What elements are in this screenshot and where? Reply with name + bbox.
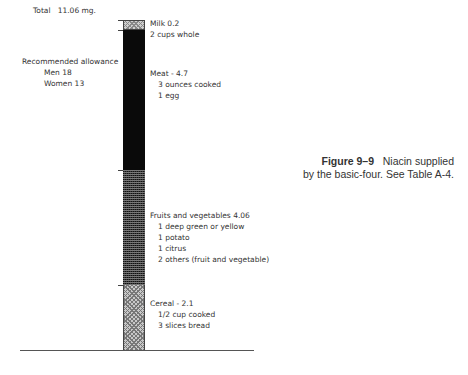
label-meat: Meat - 4.7 3 ounces cooked 1 egg [150, 68, 221, 101]
label-milk-detail: 2 cups whole [150, 29, 199, 40]
total-label-text: Total [33, 6, 51, 15]
bar-segment-cereal [123, 285, 145, 350]
total-label: Total 11.06 mg. [33, 5, 96, 16]
label-veg-detail: 1 potato [150, 232, 269, 243]
label-veg-detail: 1 citrus [150, 243, 269, 254]
label-veg-detail: 1 deep green or yellow [150, 221, 269, 232]
veg-cereal-tick [118, 285, 123, 286]
label-milk: Milk 0.2 2 cups whole [150, 18, 199, 40]
label-cereal-detail: 1/2 cup cooked [150, 309, 215, 320]
label-cereal-title: Cereal - 2.1 [150, 298, 215, 309]
bar-segment-meat [123, 30, 145, 170]
recommended-allowance-heading: Recommended allowance [22, 56, 118, 67]
baseline-axis [20, 350, 254, 351]
figure-label: Figure 9–9 [321, 155, 374, 167]
milk-meat-tick [118, 30, 123, 31]
label-meat-detail: 1 egg [150, 90, 221, 101]
label-meat-detail: 3 ounces cooked [150, 79, 221, 90]
label-veg-detail: 2 others (fruit and vegetable) [150, 254, 269, 265]
label-cereal-detail: 3 slices bread [150, 320, 215, 331]
allowance-women: Women 13 [22, 78, 118, 89]
label-cereal: Cereal - 2.1 1/2 cup cooked 3 slices bre… [150, 298, 215, 331]
label-fruits-vegetables: Fruits and vegetables 4.06 1 deep green … [150, 210, 269, 265]
niacin-stacked-bar [123, 20, 145, 350]
bar-segment-milk [123, 20, 145, 30]
allowance-men: Men 18 [22, 67, 118, 78]
figure-caption: Figure 9–9 Niacin supplied by the basic-… [303, 155, 454, 181]
label-meat-title: Meat - 4.7 [150, 68, 221, 79]
bar-segment-fruits-vegetables [123, 170, 145, 285]
meat-veg-tick [118, 170, 123, 171]
total-value: 11.06 mg. [58, 6, 96, 15]
label-milk-title: Milk 0.2 [150, 18, 199, 29]
label-veg-title: Fruits and vegetables 4.06 [150, 210, 269, 221]
caption-line1: Niacin supplied [383, 155, 454, 167]
recommended-allowance: Recommended allowance Men 18 Women 13 [22, 56, 118, 89]
caption-line2: by the basic-four. See Table A-4. [303, 168, 454, 181]
